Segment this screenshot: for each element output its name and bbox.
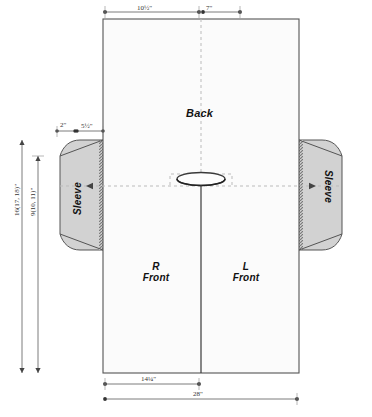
label-right-front-line2: Front <box>137 272 175 283</box>
pattern-diagram: Back R Front L Front Sleeve Sleeve 10½" … <box>0 0 372 417</box>
sleeve-right-shape <box>298 140 342 250</box>
label-back: Back <box>186 107 213 119</box>
label-sleeve-left: Sleeve <box>72 182 83 215</box>
dim-text-side-inner: 9(10, 11)" <box>29 188 37 216</box>
label-left-front-line1: L <box>227 261 265 272</box>
label-right-front: R Front <box>137 261 175 283</box>
dim-text-shoulder-5half: 5½" <box>81 122 93 130</box>
dim-text-shoulder-2in: 2" <box>60 121 66 129</box>
dim-text-bottom-inner: 14¼" <box>141 375 156 383</box>
dim-left-outer <box>19 140 24 373</box>
label-sleeve-right: Sleeve <box>323 170 334 203</box>
dim-text-top-right: 7" <box>206 4 212 12</box>
dim-text-side-outer: 16(17, 18)" <box>13 184 21 216</box>
label-left-front-line2: Front <box>227 272 265 283</box>
label-right-front-line1: R <box>137 261 175 272</box>
dim-text-bottom-outer: 28" <box>193 390 203 398</box>
label-left-front: L Front <box>227 261 265 283</box>
pattern-drawing <box>0 0 372 417</box>
dim-text-top-left: 10½" <box>137 4 152 12</box>
